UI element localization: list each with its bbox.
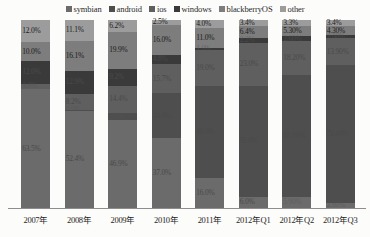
bar-segment-other[interactable]: 6.2% [108, 20, 137, 32]
bar-group: 12.0%10.0%12.0%3.0%63.5%11.1%16.1%12.9%8… [14, 20, 362, 208]
segment-value-label: 4.0% [196, 20, 211, 28]
bar-segment-windows[interactable]: 12.0% [21, 61, 50, 83]
bar-column[interactable]: 3.4%4.30%2.00%13.90%72.40%2.60% [326, 20, 355, 208]
x-axis-line [8, 208, 366, 209]
bar-segment-blackberryOS[interactable]: 19.9% [108, 32, 137, 69]
legend-item-android[interactable]: android [109, 5, 142, 14]
legend-swatch-android [109, 6, 115, 12]
segment-value-label: 3.9% [109, 113, 124, 121]
bar-segment-symbian[interactable]: 52.4% [65, 111, 94, 208]
bar-column[interactable]: 2.5%16.0%4.8%15.7%24.0%37.0% [152, 20, 181, 208]
x-axis-tick-label: 2007年 [14, 213, 57, 225]
bar-segment-windows[interactable]: 12.9% [65, 71, 94, 95]
legend-item-blackberryos[interactable]: blackberryOS [219, 5, 273, 14]
bar-segment-symbian[interactable]: 63.5% [21, 89, 50, 208]
bar-segment-android[interactable]: 24.0% [152, 93, 181, 138]
segment-value-label: 10.0% [22, 48, 40, 56]
x-axis-labels: 2007年2008年2009年2010年2011年2012年Q12012年Q22… [14, 211, 362, 227]
x-axis-tick-label: 2012年Q1 [232, 213, 275, 225]
bar-column[interactable]: 3.3%5.30%2.60%18.20%65.10%5.90% [282, 20, 311, 208]
x-axis-tick-label: 2008年 [58, 213, 101, 225]
stacked-bar-chart: symbian android ios windows blackberryOS… [0, 0, 370, 237]
segment-value-label: 72.40% [327, 130, 349, 138]
bar-segment-ios[interactable]: 23.0% [239, 43, 268, 86]
plot-area: 12.0%10.0%12.0%3.0%63.5%11.1%16.1%12.9%8… [14, 20, 362, 208]
segment-value-label: 5.90% [283, 199, 301, 207]
segment-value-label: 15.7% [153, 75, 171, 83]
bar-segment-android[interactable]: 49.0% [195, 86, 224, 178]
bar-column[interactable]: 6.2%19.9%9.2%14.4%3.9%46.9% [108, 20, 137, 208]
bar-segment-blackberryOS[interactable]: 10.0% [21, 42, 50, 61]
segment-value-label: 18.20% [283, 54, 305, 62]
segment-value-label: 12.0% [22, 27, 40, 35]
bar-segment-other[interactable]: 4.0% [195, 20, 224, 28]
bar-segment-android[interactable]: 72.40% [326, 65, 355, 203]
segment-value-label: 49.0% [196, 128, 214, 136]
segment-value-label: 52.4% [66, 156, 84, 164]
x-axis-tick-label: 2012年Q2 [275, 213, 318, 225]
chart-legend: symbian android ios windows blackberryOS… [0, 2, 370, 16]
bar-segment-android[interactable]: 65.10% [282, 75, 311, 197]
segment-value-label: 19.0% [196, 64, 214, 72]
bar-column[interactable]: 4.0%11.0%1.0%19.0%49.0%16.0% [195, 20, 224, 208]
legend-item-windows[interactable]: windows [174, 5, 212, 14]
bar-column[interactable]: 3.4%6.4%2.2%23.0%59.0%6.0% [239, 20, 268, 208]
legend-swatch-symbian [66, 6, 72, 12]
legend-swatch-blackberryos [219, 6, 225, 12]
bar-segment-ios[interactable]: 14.4% [108, 86, 137, 113]
bar-segment-symbian[interactable]: 46.9% [108, 120, 137, 208]
segment-value-label: 24.0% [153, 112, 171, 120]
segment-value-label: 65.10% [283, 132, 305, 140]
legend-item-symbian[interactable]: symbian [66, 5, 102, 14]
bar-segment-symbian[interactable]: 5.90% [282, 197, 311, 208]
segment-value-label: 12.0% [22, 69, 40, 77]
legend-swatch-windows [174, 6, 180, 12]
bar-column[interactable]: 12.0%10.0%12.0%3.0%63.5% [21, 20, 50, 208]
segment-value-label: 11.1% [66, 27, 84, 35]
bar-segment-symbian[interactable]: 16.0% [195, 178, 224, 208]
bar-segment-android[interactable]: 3.9% [108, 113, 137, 120]
segment-value-label: 6.2% [109, 22, 124, 30]
legend-label-windows: windows [182, 5, 212, 14]
x-axis-tick-label: 2010年 [145, 213, 188, 225]
segment-value-label: 63.5% [22, 145, 40, 153]
bar-segment-symbian[interactable]: 37.0% [152, 138, 181, 208]
segment-value-label: 6.0% [240, 199, 255, 207]
bar-segment-ios[interactable]: 19.0% [195, 50, 224, 86]
bar-segment-blackberryOS[interactable]: 16.0% [152, 25, 181, 55]
legend-label-ios: ios [157, 5, 167, 14]
bar-segment-ios[interactable]: 13.90% [326, 38, 355, 65]
bar-column[interactable]: 11.1%16.1%12.9%8.2%0.5%52.4% [65, 20, 94, 208]
bar-segment-blackberryOS[interactable]: 16.1% [65, 41, 94, 71]
x-axis-tick-label: 2011年 [188, 213, 231, 225]
x-axis-tick-label: 2009年 [101, 213, 144, 225]
segment-value-label: 16.0% [196, 189, 214, 197]
legend-item-ios[interactable]: ios [149, 5, 167, 14]
legend-label-other: other [288, 5, 305, 14]
legend-swatch-ios [149, 6, 155, 12]
bar-segment-windows[interactable]: 9.2% [108, 69, 137, 86]
bar-segment-ios[interactable]: 15.7% [152, 64, 181, 94]
bar-segment-symbian[interactable]: 6.0% [239, 197, 268, 208]
bar-segment-ios[interactable]: 18.20% [282, 41, 311, 75]
segment-value-label: 37.0% [153, 169, 171, 177]
segment-value-label: 4.8% [153, 56, 168, 64]
segment-value-label: 13.90% [327, 48, 349, 56]
bar-segment-other[interactable]: 11.1% [65, 20, 94, 41]
legend-item-other[interactable]: other [280, 5, 305, 14]
segment-value-label: 59.0% [240, 137, 258, 145]
legend-swatch-other [280, 6, 286, 12]
segment-value-label: 19.9% [109, 46, 127, 54]
segment-value-label: 12.9% [66, 79, 84, 87]
segment-value-label: 46.9% [109, 160, 127, 168]
segment-value-label: 23.0% [240, 60, 258, 68]
segment-value-label: 14.4% [109, 96, 127, 104]
segment-value-label: 9.2% [109, 74, 124, 82]
segment-value-label: 16.0% [153, 36, 171, 44]
bar-segment-android[interactable]: 59.0% [239, 86, 268, 197]
segment-value-label: 16.1% [66, 52, 84, 60]
bar-segment-windows[interactable]: 4.8% [152, 55, 181, 64]
bar-segment-other[interactable]: 12.0% [21, 20, 50, 42]
legend-label-symbian: symbian [74, 5, 102, 14]
legend-label-blackberryos: blackberryOS [227, 5, 273, 14]
